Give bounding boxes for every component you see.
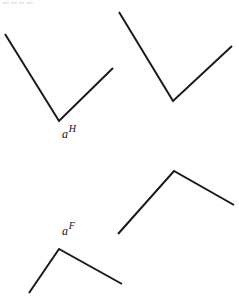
angle-label-a-h: aH <box>62 125 76 140</box>
angle-label-a-h-base: a <box>62 127 68 141</box>
angle-label-a-f: aF <box>62 222 75 237</box>
angle-label-a-h-superscript: H <box>69 123 76 134</box>
bottom-left-caret-angle <box>29 249 122 293</box>
bottom-right-caret-angle <box>118 171 234 234</box>
top-left-v-angle <box>5 34 113 121</box>
top-right-v-angle <box>119 12 232 101</box>
angle-figures-svg <box>0 0 239 299</box>
angle-label-a-f-base: a <box>62 224 68 238</box>
figure-canvas: aH aF <box>0 0 239 299</box>
scan-artifact <box>2 2 33 4</box>
angle-label-a-f-superscript: F <box>69 220 75 231</box>
